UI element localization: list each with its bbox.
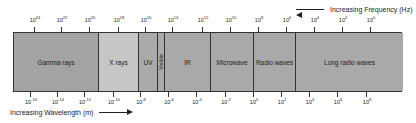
wavelength-tick xyxy=(309,92,310,97)
band-microwave: Microwave xyxy=(211,33,254,91)
band-ir: IR xyxy=(165,33,211,91)
frequency-axis-label: Increasing Frequency (Hz) xyxy=(330,6,412,13)
wavelength-tick-label: 10-2 xyxy=(221,99,231,105)
band-radio-waves: Radio waves xyxy=(254,33,296,91)
wavelength-tick xyxy=(168,92,169,97)
right-arrow-icon xyxy=(99,112,127,113)
band-label: Long radio waves xyxy=(324,59,375,66)
wavelength-tick xyxy=(253,92,254,97)
wavelength-tick xyxy=(366,92,367,97)
wavelength-tick xyxy=(140,92,141,97)
wavelength-tick-label: 10-10 xyxy=(108,99,120,105)
wavelength-tick xyxy=(225,92,226,97)
band-label: Microwave xyxy=(216,59,247,66)
frequency-tick-label: 104 xyxy=(311,17,319,23)
band-uv: UV xyxy=(139,33,158,91)
band-label: IR xyxy=(184,59,191,66)
wavelength-tick xyxy=(196,92,197,97)
frequency-axis-title: Increasing Frequency (Hz) xyxy=(290,3,412,15)
frequency-tick-label: 1010 xyxy=(226,17,237,23)
band-label: Gamma rays xyxy=(37,59,74,66)
wavelength-tick-label: 102 xyxy=(278,99,286,105)
frequency-tick-label: 1024 xyxy=(30,17,41,23)
wavelength-tick-label: 106 xyxy=(334,99,342,105)
frequency-tick-label: 102 xyxy=(339,17,347,23)
wavelength-tick-label: 10-6 xyxy=(164,99,174,105)
frequency-tick-label: 100 xyxy=(367,17,375,23)
left-arrow-icon xyxy=(296,9,324,10)
wavelength-tick-label: 108 xyxy=(363,99,371,105)
wavelength-tick-label: 10-8 xyxy=(136,99,146,105)
frequency-tick-label: 1018 xyxy=(114,17,125,23)
frequency-tick-label: 1020 xyxy=(85,17,96,23)
wavelength-tick-label: 10-4 xyxy=(192,99,202,105)
wavelength-tick-label: 10-12 xyxy=(79,99,91,105)
frequency-tick-label: 106 xyxy=(283,17,291,23)
band-x-rays: X rays xyxy=(99,33,139,91)
band-label: Visible xyxy=(158,54,164,70)
band-gamma-rays: Gamma rays xyxy=(14,33,99,91)
frequency-tick-label: 1012 xyxy=(198,17,209,23)
frequency-tick-label: 1014 xyxy=(168,17,179,23)
frequency-tick-label: 1016 xyxy=(141,17,152,23)
wavelength-axis-title: Increasing Wavelength (m) xyxy=(10,109,133,116)
band-label: Radio waves xyxy=(256,59,293,66)
wavelength-tick xyxy=(281,92,282,97)
band-long-radio-waves: Long radio waves xyxy=(296,33,403,91)
wavelength-tick-label: 104 xyxy=(306,99,314,105)
band-visible: Visible xyxy=(158,33,165,91)
wavelength-axis-label: Increasing Wavelength (m) xyxy=(10,109,93,116)
wavelength-tick-label: 10-16 xyxy=(25,99,37,105)
band-label: UV xyxy=(143,59,152,66)
wavelength-tick-label: 100 xyxy=(250,99,258,105)
frequency-tick-label: 1022 xyxy=(57,17,68,23)
wavelength-tick-label: 10-14 xyxy=(52,99,64,105)
spectrum-bar: Gamma raysX raysUVVisibleIRMicrowaveRadi… xyxy=(13,32,402,92)
wavelength-tick xyxy=(337,92,338,97)
band-label: X rays xyxy=(109,59,127,66)
frequency-tick-label: 108 xyxy=(255,17,263,23)
